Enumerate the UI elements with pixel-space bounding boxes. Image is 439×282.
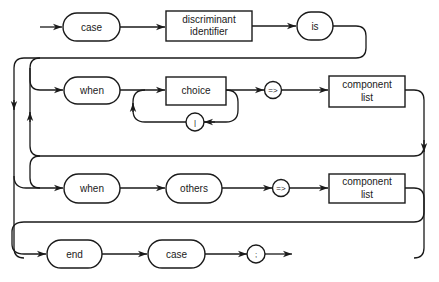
symbol-label: => — [276, 184, 286, 193]
terminal-label: when — [79, 85, 104, 96]
case-statement-syntax-diagram: case discriminant identifier is when cho… — [0, 0, 439, 282]
terminal-label: is — [311, 21, 318, 32]
arrow-to-when-row3 — [14, 176, 63, 188]
nonterminal-choice: choice — [166, 77, 226, 105]
symbol-label: => — [268, 86, 278, 95]
terminal-case-end: case — [148, 240, 205, 268]
return-line-row1 — [14, 26, 366, 258]
terminal-when: when — [64, 77, 120, 104]
connector-lines — [12, 26, 424, 258]
nonterminal-label-line1: component — [342, 79, 392, 90]
symbol-arrow-others: => — [273, 180, 290, 197]
nonterminal-label-line2: identifier — [190, 26, 228, 37]
symbol-arrow: => — [265, 82, 282, 99]
terminal-others: others — [166, 174, 222, 203]
terminal-label: end — [66, 249, 83, 260]
terminal-case: case — [63, 13, 120, 41]
terminal-is: is — [297, 12, 333, 40]
branch-to-row3 — [30, 156, 40, 188]
symbol-label: ; — [255, 250, 257, 259]
nonterminal-label: choice — [182, 85, 211, 96]
nonterminal-label-line2: list — [361, 92, 373, 103]
terminal-end: end — [47, 240, 102, 268]
terminal-when-others-branch: when — [64, 174, 120, 203]
nonterminal-label-line2: list — [361, 189, 373, 200]
symbol-label: | — [194, 118, 196, 127]
terminal-label: case — [81, 22, 103, 33]
nonterminal-label-line1: component — [342, 176, 392, 187]
symbol-semicolon: ; — [247, 245, 265, 263]
terminal-label: others — [180, 183, 208, 194]
terminal-label: case — [166, 249, 188, 260]
nonterminal-component-list-others: component list — [329, 174, 405, 203]
terminal-label: when — [79, 183, 104, 194]
nonterminal-discriminant-identifier: discriminant identifier — [166, 11, 252, 41]
nonterminal-component-list: component list — [329, 76, 405, 107]
arrow-to-when-row2 — [30, 58, 63, 90]
right-rail — [405, 90, 424, 258]
row3-exit — [405, 188, 424, 198]
nonterminal-label-line1: discriminant — [182, 14, 236, 25]
symbol-bar: | — [186, 113, 204, 131]
